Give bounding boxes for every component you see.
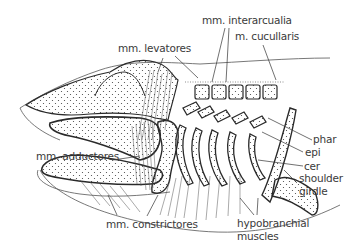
label-mm-interarcualia: mm. interarcualia bbox=[202, 14, 292, 26]
label-m-cucullaris: m. cucullaris bbox=[235, 30, 299, 42]
label-phar: phar bbox=[313, 133, 336, 145]
pharyngobranchial-blocks bbox=[195, 85, 277, 99]
label-mm-constrictores: mm. constrictores bbox=[106, 218, 198, 230]
label-hypobranchial-2: muscles bbox=[237, 230, 279, 242]
label-shoulder-girdle-2: girdle bbox=[299, 185, 328, 197]
label-shoulder-girdle-1: shoulder bbox=[299, 172, 343, 184]
label-cer: cer bbox=[304, 160, 320, 172]
label-epi: epi bbox=[305, 146, 320, 158]
label-mm-levatores: mm. levatores bbox=[118, 42, 191, 54]
label-mm-adductores: mm. adductores bbox=[36, 150, 119, 162]
label-hypobranchial-1: hypobranchial bbox=[237, 217, 309, 229]
shark-head-anatomy-diagram bbox=[0, 0, 353, 247]
branchial-arches bbox=[176, 102, 266, 186]
